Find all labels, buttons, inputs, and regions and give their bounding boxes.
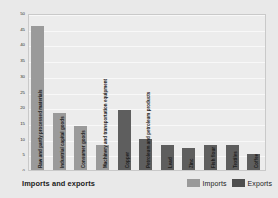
bar-group: Fish flour xyxy=(204,14,217,170)
y-axis-tick-label: 25 xyxy=(12,91,25,95)
chart-title: Imports and exports xyxy=(22,179,95,188)
bar-series-container: Raw and partly processed materialsIndust… xyxy=(29,15,265,170)
plot-area: Raw and partly processed materialsIndust… xyxy=(28,14,266,171)
bar-group: Industrial capital goods xyxy=(53,14,66,170)
category-label: Copper xyxy=(125,152,130,168)
y-axis-tick-label: 35 xyxy=(12,59,25,63)
bar-group: Machinery and transportation equipment xyxy=(96,14,109,170)
category-label: Industrial capital goods xyxy=(60,116,65,168)
category-label: Petroleum and petroleum products xyxy=(146,92,151,168)
category-label: Zinc xyxy=(189,159,194,168)
category-label: Consumer goods xyxy=(81,130,86,168)
y-axis-tick-label: 50 xyxy=(12,12,25,16)
legend-label-imports: Imports xyxy=(203,180,227,187)
y-axis-tick-label: 45 xyxy=(12,28,25,32)
y-axis-tick-label: 30 xyxy=(12,75,25,79)
category-label: Fish flour xyxy=(211,147,216,168)
legend-item-imports: Imports xyxy=(187,179,227,187)
bar-group: Coffee xyxy=(247,14,260,170)
chart-footer: Imports and exports Imports Exports xyxy=(0,171,278,198)
y-axis-tick-label: 40 xyxy=(12,43,25,47)
bar-group: Petroleum and petroleum products xyxy=(139,14,152,170)
legend-item-exports: Exports xyxy=(232,179,272,187)
y-axis-tick-label: 20 xyxy=(12,106,25,110)
bar-group: Textiles xyxy=(226,14,239,170)
legend: Imports Exports xyxy=(187,179,272,187)
y-axis-tick-label: 10 xyxy=(12,138,25,142)
bar-group: Zinc xyxy=(182,14,195,170)
legend-swatch-exports xyxy=(232,179,245,187)
category-label: Raw and partly processed materials xyxy=(38,90,43,168)
legend-label-exports: Exports xyxy=(248,180,272,187)
bar-group: Raw and partly processed materials xyxy=(31,14,44,170)
legend-swatch-imports xyxy=(187,179,200,187)
bar-group: Lead xyxy=(161,14,174,170)
category-label: Coffee xyxy=(254,154,259,168)
category-label: Machinery and transportation equipment xyxy=(103,79,108,168)
category-label: Lead xyxy=(168,157,173,168)
y-axis-tick-label: 5 xyxy=(12,153,25,157)
category-label: Textiles xyxy=(233,151,238,168)
bar-group: Copper xyxy=(118,14,131,170)
bar-group: Consumer goods xyxy=(74,14,87,170)
chart-figure: Percentage of total 50454035302520151050… xyxy=(0,0,278,198)
y-axis-tick-label: 15 xyxy=(12,122,25,126)
